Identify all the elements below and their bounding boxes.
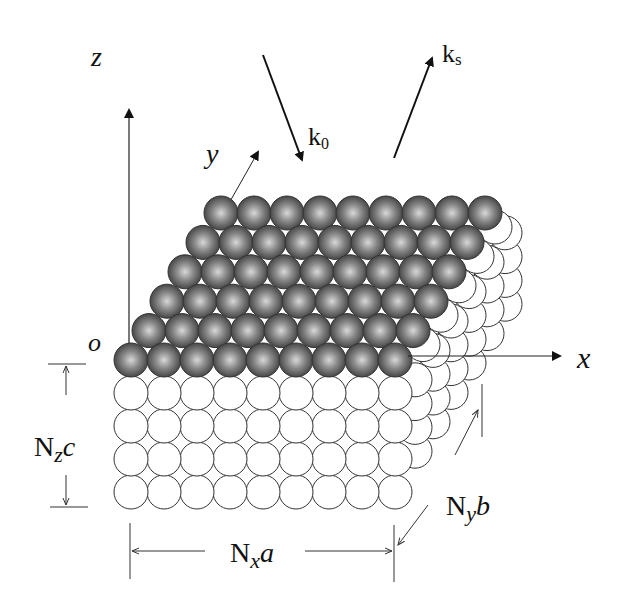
surface-atom	[315, 284, 349, 318]
surface-atom	[378, 343, 412, 377]
surface-atom	[402, 196, 436, 230]
bulk-atom	[114, 442, 148, 476]
bulk-atom	[279, 376, 313, 410]
surface-atom	[396, 314, 430, 348]
bulk-atom	[180, 409, 214, 443]
surface-atom	[198, 314, 232, 348]
bulk-atom	[246, 409, 280, 443]
surface-atom	[132, 314, 166, 348]
bulk-atom	[378, 442, 412, 476]
surface-atom	[318, 225, 352, 259]
z-axis-label: z	[90, 41, 102, 72]
bulk-atom	[312, 376, 346, 410]
surface-atom	[252, 225, 286, 259]
bulk-atom	[345, 376, 379, 410]
bulk-atom	[147, 442, 181, 476]
surface-atom	[414, 284, 448, 318]
surface-atom	[435, 196, 469, 230]
surface-atom	[297, 314, 331, 348]
bulk-atom	[114, 475, 148, 509]
surface-atom	[369, 196, 403, 230]
bulk-atom	[213, 475, 247, 509]
surface-atom	[450, 225, 484, 259]
bulk-atom	[378, 475, 412, 509]
surface-atom	[417, 225, 451, 259]
surface-atom	[186, 225, 220, 259]
surface-atom	[183, 284, 217, 318]
bulk-atom	[147, 409, 181, 443]
surface-atom	[468, 196, 502, 230]
bulk-atom	[180, 376, 214, 410]
surface-atom	[333, 255, 367, 289]
surface-atom	[399, 255, 433, 289]
surface-atom	[363, 314, 397, 348]
surface-atom	[330, 314, 364, 348]
bulk-atom	[279, 475, 313, 509]
surface-atom	[267, 255, 301, 289]
bulk-atom	[312, 475, 346, 509]
bulk-atom	[213, 409, 247, 443]
bulk-atom	[378, 409, 412, 443]
bulk-atom	[147, 475, 181, 509]
surface-atom	[384, 225, 418, 259]
y-axis-label: y	[203, 138, 219, 169]
surface-atom	[150, 284, 184, 318]
surface-atom	[366, 255, 400, 289]
surface-atom	[216, 284, 250, 318]
surface-atom	[285, 225, 319, 259]
k0-label: k0	[308, 122, 329, 152]
surface-atom	[231, 314, 265, 348]
surface-atom	[249, 284, 283, 318]
surface-atom	[432, 255, 466, 289]
surface-atom	[348, 284, 382, 318]
surface-atom	[180, 343, 214, 377]
bulk-atom	[279, 409, 313, 443]
surface-atom	[168, 255, 202, 289]
surface-atom	[147, 343, 181, 377]
ny-dim-arrow-down	[398, 505, 428, 545]
origin-label: o	[88, 328, 101, 357]
bulk-atom	[180, 442, 214, 476]
bulk-atom	[345, 475, 379, 509]
surface-atom	[165, 314, 199, 348]
bulk-atom	[180, 475, 214, 509]
bulk-atom	[246, 475, 280, 509]
surface-atom	[219, 225, 253, 259]
bulk-atom	[312, 442, 346, 476]
bulk-atom	[378, 376, 412, 410]
surface-atom	[279, 343, 313, 377]
bulk-atom	[114, 376, 148, 410]
surface-atom	[303, 196, 337, 230]
lattice-diagram: z y x o k0 ks Nzc Nxa Nyb	[0, 0, 632, 609]
bulk-atom	[147, 376, 181, 410]
surface-atom	[351, 225, 385, 259]
surface-atom	[114, 343, 148, 377]
bulk-atom	[279, 442, 313, 476]
surface-atom	[270, 196, 304, 230]
bulk-atom	[345, 409, 379, 443]
surface-atom	[381, 284, 415, 318]
bulk-front-atoms	[114, 376, 412, 509]
bulk-atom	[312, 409, 346, 443]
nx-a-label: Nxa	[230, 537, 274, 573]
surface-atom	[300, 255, 334, 289]
bulk-atom	[246, 376, 280, 410]
surface-atom	[201, 255, 235, 289]
incident-vector	[263, 55, 302, 160]
bulk-atom	[345, 442, 379, 476]
x-axis-label: x	[576, 341, 591, 374]
bulk-atom	[114, 409, 148, 443]
surface-atom	[345, 343, 379, 377]
ny-b-label: Nyb	[446, 490, 490, 526]
ny-dim-arrow-up	[455, 410, 478, 455]
surface-atom	[237, 196, 271, 230]
surface-atom	[234, 255, 268, 289]
surface-atom	[213, 343, 247, 377]
surface-atom	[336, 196, 370, 230]
surface-atom	[246, 343, 280, 377]
surface-atom	[312, 343, 346, 377]
surface-atom	[264, 314, 298, 348]
ks-label: ks	[442, 39, 462, 69]
nz-c-label: Nzc	[34, 431, 76, 467]
bulk-atom	[246, 442, 280, 476]
